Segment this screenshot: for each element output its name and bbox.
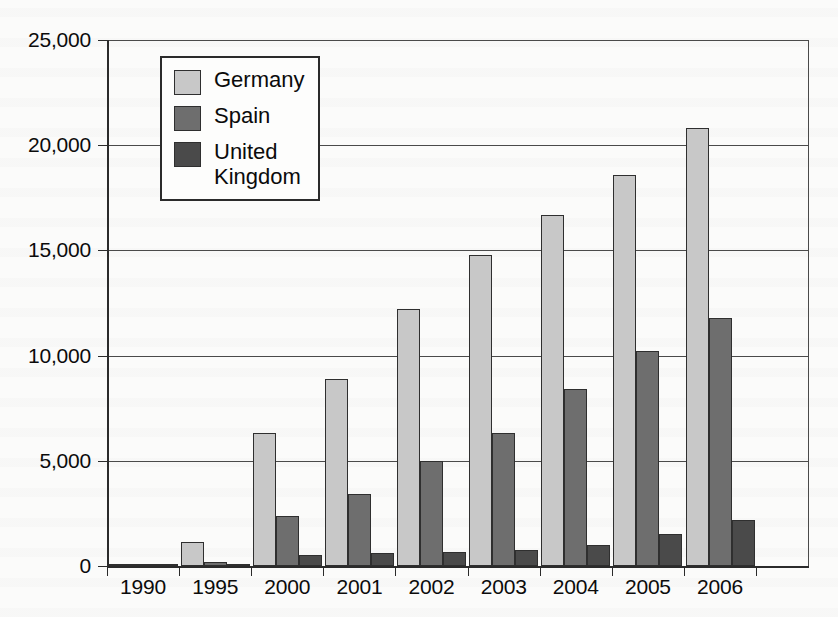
y-axis-tick-mark	[98, 461, 107, 462]
bar	[636, 351, 659, 566]
legend-label: United Kingdom	[214, 140, 301, 189]
x-axis-tick-mark	[468, 567, 469, 576]
y-axis-tick-label: 25,000	[0, 28, 91, 52]
legend-item: United Kingdom	[174, 140, 304, 189]
y-axis-tick-label: 10,000	[0, 344, 91, 368]
x-axis-tick-mark	[684, 567, 685, 576]
x-axis-tick-mark	[323, 567, 324, 576]
bar	[371, 553, 394, 566]
bar	[613, 175, 636, 566]
chart-legend: GermanySpainUnited Kingdom	[160, 56, 320, 201]
x-axis-tick-mark	[756, 567, 757, 576]
y-axis-tick-label: 15,000	[0, 238, 91, 262]
bar	[492, 433, 515, 566]
x-axis-tick-label: 2004	[553, 575, 599, 599]
x-axis-tick-label: 1990	[120, 575, 166, 599]
y-axis-tick-label: 5,000	[0, 449, 91, 473]
legend-item: Spain	[174, 104, 304, 131]
y-axis-tick-mark	[98, 566, 107, 567]
x-axis-tick-mark	[395, 567, 396, 576]
x-axis-tick-label: 2000	[264, 575, 310, 599]
x-axis-tick-label: 2003	[481, 575, 527, 599]
legend-color-swatch	[174, 142, 201, 167]
x-axis-tick-mark	[107, 567, 108, 576]
bar-chart: 05,00010,00015,00020,00025,000 199019952…	[0, 0, 838, 617]
bar	[348, 494, 371, 566]
bar	[732, 520, 755, 566]
y-axis-tick-mark	[98, 40, 107, 41]
bar	[587, 545, 610, 566]
y-axis-tick-mark	[98, 145, 107, 146]
bar	[515, 550, 538, 566]
x-axis-tick-label: 2006	[697, 575, 743, 599]
bar	[541, 215, 564, 566]
x-axis-tick-mark	[612, 567, 613, 576]
x-axis-tick-label: 2005	[625, 575, 671, 599]
legend-color-swatch	[174, 106, 201, 131]
legend-color-swatch	[174, 70, 201, 95]
bar	[420, 461, 443, 566]
bar	[253, 433, 276, 566]
bar	[325, 379, 348, 566]
x-axis-tick-label: 1995	[192, 575, 238, 599]
y-axis-tick-label: 0	[0, 554, 91, 578]
plot-frame-top	[107, 40, 808, 41]
bar	[181, 542, 204, 566]
y-axis-tick-label: 20,000	[0, 133, 91, 157]
x-axis-tick-mark	[179, 567, 180, 576]
legend-label: Spain	[214, 104, 270, 129]
bar	[299, 555, 322, 566]
bar	[443, 552, 466, 566]
y-axis-tick-mark	[98, 356, 107, 357]
x-axis-line	[107, 566, 809, 568]
y-axis-line	[107, 40, 109, 568]
bar	[469, 255, 492, 566]
bar	[709, 318, 732, 566]
bar	[564, 389, 587, 566]
x-axis-tick-label: 2002	[409, 575, 455, 599]
bar	[397, 309, 420, 566]
y-axis-tick-mark	[98, 250, 107, 251]
x-axis-tick-mark	[540, 567, 541, 576]
plot-frame-right	[808, 40, 809, 566]
x-axis-tick-mark	[251, 567, 252, 576]
bar	[686, 128, 709, 566]
legend-item: Germany	[174, 68, 304, 95]
bar	[276, 516, 299, 566]
bar	[659, 534, 682, 566]
x-axis-tick-label: 2001	[336, 575, 382, 599]
legend-label: Germany	[214, 68, 304, 93]
